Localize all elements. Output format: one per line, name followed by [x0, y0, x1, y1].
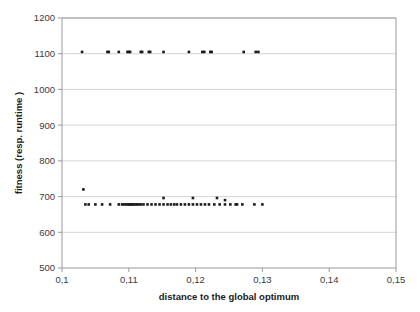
data-point	[204, 203, 207, 206]
data-point	[129, 51, 132, 54]
data-point	[208, 203, 211, 206]
x-tick-label: 0,11	[120, 274, 138, 285]
scatter-chart: 500600700800900100011001200 0,10,110,120…	[0, 0, 420, 312]
x-tick-label: 0,13	[253, 274, 272, 285]
y-axis-title: fitness (resp. runtime )	[13, 92, 24, 194]
data-point	[173, 203, 176, 206]
data-point	[180, 203, 183, 206]
y-axis-ticks: 500600700800900100011001200	[34, 12, 62, 273]
data-point	[176, 203, 179, 206]
data-point	[81, 51, 84, 54]
data-point	[107, 51, 110, 54]
data-point	[109, 203, 112, 206]
data-point	[218, 203, 221, 206]
data-point	[140, 203, 143, 206]
data-point	[229, 203, 232, 206]
plot-svg: 500600700800900100011001200 0,10,110,120…	[0, 0, 420, 312]
data-point	[170, 203, 173, 206]
data-point	[149, 51, 152, 54]
data-point	[210, 51, 213, 54]
data-point	[253, 203, 256, 206]
y-tick-label: 500	[39, 262, 55, 273]
x-tick-label: 0,15	[387, 274, 406, 285]
data-point	[84, 203, 87, 206]
x-axis-title: distance to the global optimum	[159, 291, 299, 302]
data-point	[142, 203, 145, 206]
data-point	[158, 203, 161, 206]
y-tick-label: 800	[39, 155, 55, 166]
data-point	[82, 188, 85, 191]
data-point	[216, 197, 219, 200]
data-point	[261, 203, 264, 206]
data-point	[166, 203, 169, 206]
data-point	[192, 203, 195, 206]
data-point	[224, 203, 227, 206]
data-point	[184, 203, 187, 206]
data-point	[154, 203, 157, 206]
data-point	[224, 199, 227, 202]
data-point	[236, 203, 239, 206]
x-tick-label: 0,12	[186, 274, 205, 285]
data-point	[188, 203, 191, 206]
data-point	[213, 203, 216, 206]
data-point	[192, 197, 195, 200]
data-points	[81, 51, 264, 206]
data-point	[200, 203, 203, 206]
axes	[62, 18, 396, 268]
data-point	[87, 203, 90, 206]
data-point	[162, 51, 165, 54]
data-point	[196, 203, 199, 206]
x-tick-label: 0,14	[320, 274, 339, 285]
data-point	[241, 203, 244, 206]
data-point	[242, 51, 245, 54]
data-point	[162, 197, 165, 200]
data-point	[162, 203, 165, 206]
data-point	[141, 51, 144, 54]
data-point	[254, 51, 257, 54]
y-tick-label: 900	[39, 120, 55, 131]
data-point	[94, 203, 97, 206]
y-tick-label: 700	[39, 191, 55, 202]
data-point	[117, 203, 120, 206]
y-tick-label: 600	[39, 227, 55, 238]
gridlines	[62, 18, 396, 232]
y-tick-label: 1200	[34, 12, 55, 23]
data-point	[150, 203, 153, 206]
y-tick-label: 1100	[35, 48, 55, 59]
data-point	[188, 51, 191, 54]
y-tick-label: 1000	[34, 84, 55, 95]
series-upper-cluster	[81, 51, 260, 54]
data-point	[257, 51, 260, 54]
x-axis-ticks: 0,10,110,120,130,140,15	[55, 268, 405, 285]
data-point	[146, 203, 149, 206]
x-tick-label: 0,1	[55, 274, 68, 285]
data-point	[203, 51, 206, 54]
data-point	[117, 51, 120, 54]
data-point	[101, 203, 104, 206]
